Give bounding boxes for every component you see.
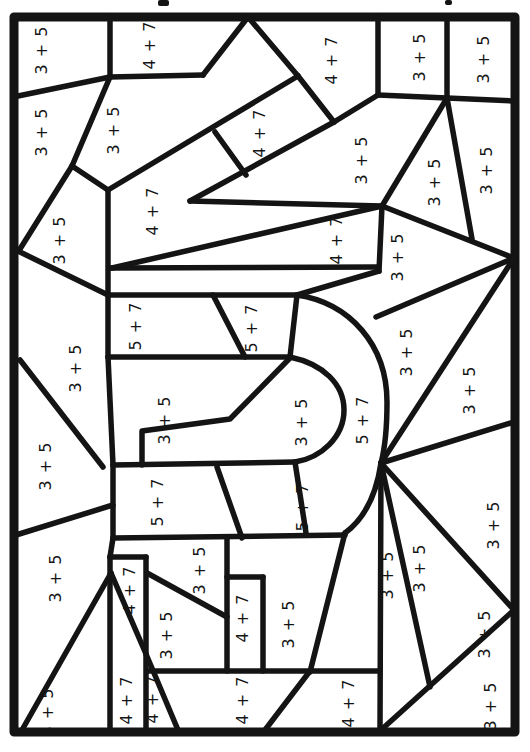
region-label: 3 + 5	[352, 136, 371, 185]
region-label: 3 + 5	[397, 328, 416, 377]
region-label: 4 + 7	[143, 187, 162, 236]
region-label: 4 + 7	[339, 679, 358, 728]
region-label: 3 + 5	[32, 108, 51, 157]
region-label: 3 + 5	[50, 216, 69, 265]
boundary-line	[379, 206, 382, 271]
boundary-line	[110, 75, 203, 77]
region-label: 4 + 7	[322, 36, 341, 85]
region-label: 3 + 5	[104, 106, 123, 155]
region-label: 3 + 5	[474, 35, 493, 84]
region-label: 4 + 7	[250, 109, 269, 158]
region-label: 3 + 5	[388, 233, 407, 282]
region-label: 5 + 7	[293, 483, 312, 532]
cropped-title-fragment	[445, 0, 452, 5]
region-label: 5 + 7	[148, 478, 167, 527]
region-label: 3 + 5	[155, 396, 174, 445]
region-label: 3 + 5	[292, 398, 311, 447]
region-label: 3 + 5	[475, 610, 494, 659]
region-label: 5 + 7	[126, 302, 145, 351]
region-label: 3 + 5	[484, 501, 503, 550]
region-label: 3 + 5	[410, 544, 429, 593]
region-label: 5 + 7	[353, 396, 372, 445]
worksheet-page: 3 + 54 + 74 + 73 + 53 + 53 + 53 + 54 + 7…	[0, 0, 530, 752]
region-label: 3 + 5	[410, 33, 429, 82]
region-label: 3 + 5	[32, 26, 51, 75]
region-label: 4 + 7	[233, 676, 252, 725]
region-label: 3 + 5	[157, 611, 176, 660]
region-label: 4 + 7	[120, 566, 139, 615]
region-label: 3 + 5	[477, 146, 496, 195]
region-label: 4 + 7	[327, 216, 346, 265]
region-label: 5 + 7	[242, 304, 261, 353]
region-label: 3 + 5	[190, 546, 209, 595]
region-label: 3 + 5	[481, 682, 500, 731]
region-label: 3 + 5	[279, 600, 298, 649]
region-label: 4 + 7	[117, 676, 136, 725]
region-label: 3 + 5	[36, 442, 55, 491]
region-label: 4 + 7	[140, 21, 159, 70]
boundary-line	[447, 98, 513, 101]
region-label: 4 + 7	[233, 594, 252, 643]
color-by-answer-puzzle: 3 + 54 + 74 + 73 + 53 + 53 + 53 + 54 + 7…	[0, 0, 530, 752]
boundary-line	[110, 538, 113, 557]
region-label: 3 + 5	[46, 554, 65, 603]
boundary-line	[110, 267, 377, 268]
region-label: 3 + 5	[38, 688, 57, 737]
cropped-title-fragment	[158, 0, 169, 6]
region-label: 3 + 5	[425, 158, 444, 207]
region-label: 3 + 5	[460, 366, 479, 415]
region-label: 4 + 7	[143, 675, 162, 724]
boundary-line	[378, 95, 447, 98]
region-label: 3 + 5	[66, 344, 85, 393]
region-label: 3 + 5	[378, 551, 397, 600]
